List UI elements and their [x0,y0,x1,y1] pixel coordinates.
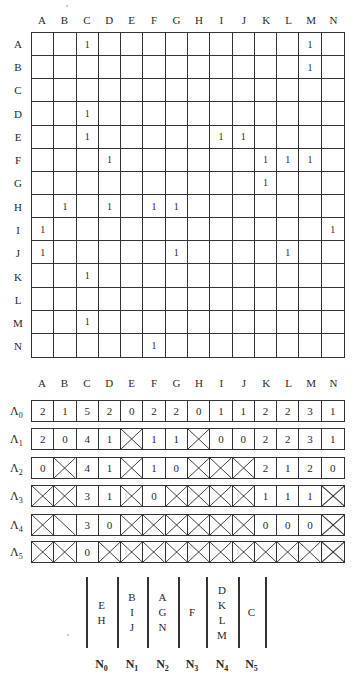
row-label: H [11,200,25,214]
matrix-cell [299,241,321,264]
lambda-row-label: Λ3 [10,489,23,508]
matrix-cell: 1 [99,195,121,218]
matrix-cell [210,195,232,218]
level-name: N [156,657,165,671]
level-member: K [218,598,226,613]
matrix-cell [322,311,344,334]
crossed-cell [188,515,210,535]
lambda-cell: 5 [77,401,99,421]
matrix-cell [166,334,188,357]
matrix-cell [99,33,121,56]
matrix-cell [188,311,210,334]
matrix-cell [233,241,255,264]
matrix-cell [255,334,277,357]
matrix-cell [255,56,277,79]
matrix-cell [166,218,188,241]
lambda-cell: 4 [77,458,99,478]
cross-mark-icon [277,542,298,562]
lambda-cell: 1 [54,401,76,421]
matrix-cell [210,149,232,172]
crossed-cell [121,458,143,478]
crossed-cell [121,429,143,449]
matrix-cell [210,33,232,56]
lambda-cell: 0 [277,515,299,535]
matrix-cell [121,33,143,56]
lambda-row-label: Λ1 [10,432,23,451]
column-header: H [188,14,210,26]
matrix-cell [77,218,99,241]
cross-mark-icon [188,429,209,449]
crossed-cell [143,542,165,562]
column-header: G [166,14,188,26]
matrix-cell [99,102,121,125]
crossed-cell [166,515,188,535]
matrix-cell [210,264,232,287]
level-group: BIJ [117,577,147,648]
lambda-cell: 1 [277,486,299,506]
matrix-cell [233,311,255,334]
level-name: N [95,657,104,671]
lambda-row: 310111 [31,485,345,507]
row-label: J [11,246,25,260]
matrix-cell [188,172,210,195]
cross-mark-icon [255,542,276,562]
lambda-cell: 1 [143,458,165,478]
lambda-subscript: 1 [19,439,23,448]
level-subscript: 0 [104,664,108,673]
matrix-cell [166,172,188,195]
matrix-cell [277,172,299,195]
cross-mark-icon [233,515,254,535]
level-member: C [248,605,255,620]
matrix-cell [233,172,255,195]
matrix-cell [188,102,210,125]
column-header: K [255,377,277,389]
level-group: F [178,577,206,648]
matrix-cell [143,149,165,172]
matrix-cell [277,102,299,125]
crossed-cell [322,515,344,535]
matrix-cell [54,218,76,241]
lambda-cell: 1 [322,429,344,449]
matrix-cell [233,79,255,102]
matrix-cell [210,102,232,125]
matrix-cell [32,126,54,149]
cross-mark-icon [210,458,231,478]
matrix-cell [255,264,277,287]
level-group: EH [86,577,117,648]
matrix-cell [277,79,299,102]
matrix-cell [299,288,321,311]
lambda-row: 041102120 [31,457,345,479]
matrix-cell: 1 [77,264,99,287]
cross-mark-icon [54,458,75,478]
matrix-cell [255,241,277,264]
level-member: A [159,590,167,605]
matrix-cell [121,241,143,264]
matrix-cell [32,102,54,125]
cross-mark-icon [143,515,164,535]
matrix-cell: 1 [166,195,188,218]
matrix-cell [121,172,143,195]
matrix-cell [166,102,188,125]
matrix-cell [143,264,165,287]
matrix-cell [210,241,232,264]
scan-speck [66,5,68,7]
matrix-cell [277,126,299,149]
matrix-cell [322,56,344,79]
column-header: I [210,14,232,26]
lambda-cell: 0 [143,486,165,506]
matrix-cell [255,79,277,102]
matrix-cell [210,218,232,241]
lambda-cell: 2 [143,401,165,421]
matrix-cell [188,126,210,149]
matrix-cell [99,311,121,334]
lambda-cell: 1 [143,429,165,449]
matrix-cell [121,195,143,218]
lambda-cell: 0 [188,401,210,421]
matrix-cell [32,56,54,79]
level-member: I [130,605,134,620]
matrix-cell: 1 [322,218,344,241]
diagonal-mark-icon [54,515,75,535]
lambda-cell: 2 [166,401,188,421]
level-member: G [159,605,167,620]
row-label: N [11,339,25,353]
